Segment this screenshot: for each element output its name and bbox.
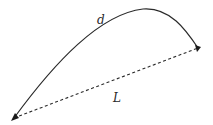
diagram-canvas: d L — [0, 0, 213, 125]
curve-label-d: d — [97, 14, 105, 26]
chord-label-L: L — [113, 92, 121, 104]
diagram-svg — [0, 0, 213, 125]
start-point-marker-icon — [11, 113, 19, 121]
curved-path-d — [14, 9, 198, 118]
